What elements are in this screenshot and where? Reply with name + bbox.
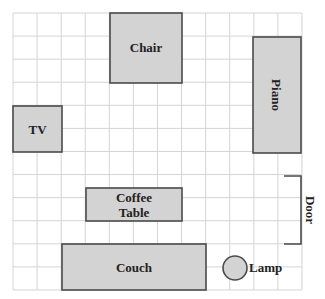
lamp-label: Lamp bbox=[249, 260, 282, 275]
door-bracket bbox=[284, 176, 301, 244]
coffee-table: Coffee Table bbox=[86, 188, 182, 221]
couch: Couch bbox=[62, 244, 206, 290]
piano: Piano bbox=[253, 37, 301, 153]
piano-label: Piano bbox=[269, 79, 284, 111]
lamp: Lamp bbox=[223, 256, 282, 280]
floor-plan-diagram: Chair Piano TV Coffee Table Couch Lamp D… bbox=[0, 0, 325, 299]
chair: Chair bbox=[110, 13, 182, 83]
couch-label: Couch bbox=[116, 260, 153, 275]
coffee-table-label-line2: Table bbox=[119, 205, 150, 220]
lamp-shape bbox=[223, 256, 247, 280]
door: Door bbox=[284, 176, 318, 244]
door-label: Door bbox=[303, 196, 318, 224]
chair-label: Chair bbox=[130, 40, 163, 55]
tv: TV bbox=[13, 106, 62, 152]
tv-label: TV bbox=[28, 122, 47, 137]
coffee-table-label-line1: Coffee bbox=[116, 190, 152, 205]
